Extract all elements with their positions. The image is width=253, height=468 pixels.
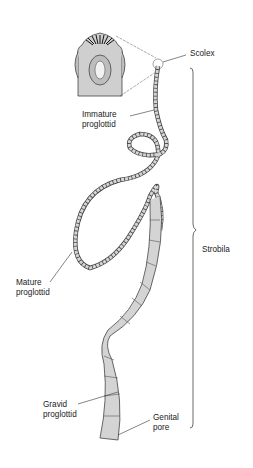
strobila-bracket bbox=[190, 68, 196, 428]
label-immature-line1: Immature bbox=[82, 110, 117, 120]
label-mature-line1: Mature bbox=[16, 278, 50, 288]
tapeworm-diagram bbox=[0, 0, 253, 468]
label-genital-pore: Genital pore bbox=[153, 413, 179, 432]
label-mature-line2: proglottid bbox=[16, 288, 50, 298]
label-gravid-line1: Gravid bbox=[43, 400, 77, 410]
label-immature-proglottid: Immature proglottid bbox=[82, 110, 117, 129]
label-gravid-proglottid: Gravid proglottid bbox=[43, 400, 77, 419]
label-genital-line2: pore bbox=[153, 423, 179, 433]
label-strobila: Strobila bbox=[202, 245, 230, 255]
label-mature-proglottid: Mature proglottid bbox=[16, 278, 50, 297]
scolex-enlarged-illustration bbox=[75, 33, 163, 96]
label-immature-line2: proglottid bbox=[82, 120, 117, 130]
label-genital-line1: Genital bbox=[153, 413, 179, 423]
label-scolex: Scolex bbox=[190, 49, 215, 59]
label-gravid-line2: proglottid bbox=[43, 410, 77, 420]
